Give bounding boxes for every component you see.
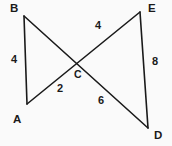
segment-ed [140,12,148,128]
length-label-ab: 4 [11,54,17,65]
figure-canvas [0,0,172,146]
segment-ae [27,12,140,104]
length-label-ac: 2 [57,83,63,94]
vertex-label-d: D [154,130,162,142]
vertex-label-c: C [74,69,82,80]
vertex-label-b: B [10,3,18,15]
length-label-ce: 4 [95,20,101,31]
geometry-diagram: B E A D C 4 4 8 2 6 [0,0,172,146]
segments-group [24,12,148,128]
segment-bd [24,16,148,128]
length-label-cd: 6 [98,95,104,106]
vertex-label-a: A [13,114,21,126]
vertex-label-e: E [148,3,156,15]
length-label-de: 8 [152,56,158,67]
segment-ba [24,16,27,104]
